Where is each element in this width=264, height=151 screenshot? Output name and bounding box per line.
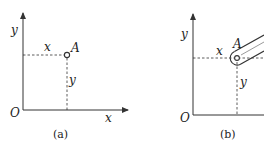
origin-label: O xyxy=(10,106,20,120)
coord-y-label: y xyxy=(68,73,76,87)
panel-a: y x A y O x (a) xyxy=(10,13,128,141)
panel-b: y x A y O (b) xyxy=(180,14,264,141)
caption-b: (b) xyxy=(220,128,236,141)
point-a-marker xyxy=(64,52,69,57)
figure-canvas: y x A y O x (a) y x A y O (b) xyxy=(0,0,264,151)
pin-joint-a xyxy=(235,56,240,61)
coord-x-label: x xyxy=(44,40,51,54)
y-axis-label: y xyxy=(10,23,18,37)
y-axis-label: y xyxy=(180,27,188,41)
caption-a: (a) xyxy=(53,128,68,141)
point-label: A xyxy=(232,37,242,51)
x-axis-label: x xyxy=(105,111,112,125)
coord-x-label: x xyxy=(216,44,223,58)
coord-y-label: y xyxy=(239,75,247,89)
point-label: A xyxy=(70,41,80,55)
origin-label: O xyxy=(180,111,190,125)
